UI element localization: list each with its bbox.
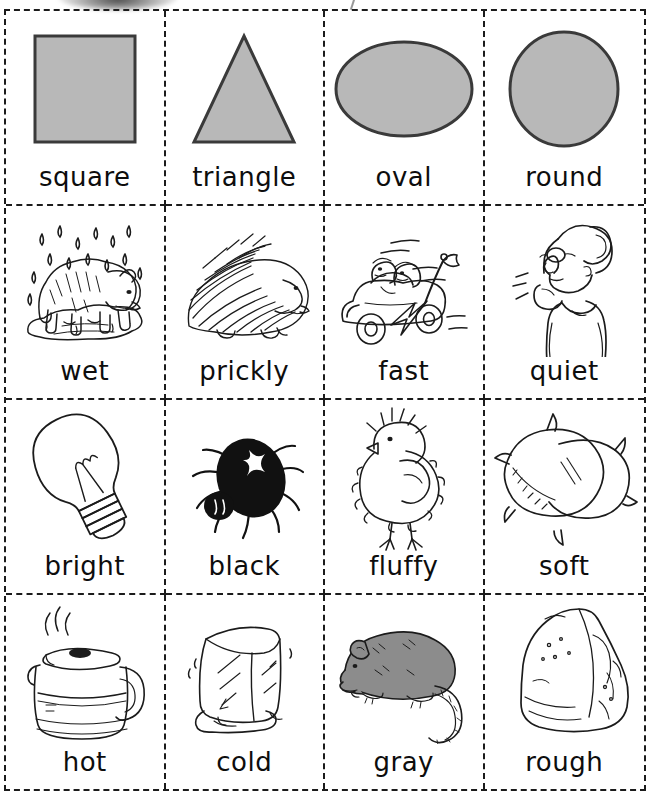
card-label: wet (60, 358, 109, 398)
card-label: square (39, 164, 131, 204)
coffee-pot-icon (6, 599, 164, 750)
card-label: black (208, 553, 280, 593)
card-black[interactable]: black (166, 400, 326, 595)
black-spider-icon (166, 404, 324, 553)
card-label: fast (378, 358, 429, 398)
pillow-icon (485, 404, 645, 553)
gray-mouse-icon (325, 599, 483, 750)
card-fast[interactable]: fast (325, 206, 485, 401)
card-label: oval (376, 164, 432, 204)
rock-icon (485, 599, 645, 750)
card-label: round (525, 164, 603, 204)
card-label: gray (373, 749, 434, 789)
circle-shape-icon (485, 15, 645, 164)
shushing-woman-icon (485, 210, 645, 359)
card-soft[interactable]: soft (485, 400, 645, 595)
oval-shape-icon (325, 15, 483, 164)
card-quiet[interactable]: quiet (485, 206, 645, 401)
triangle-shape-icon (166, 15, 324, 164)
card-label: hot (63, 749, 107, 789)
card-hot[interactable]: hot (6, 595, 166, 790)
card-label: triangle (192, 164, 296, 204)
porcupine-icon (166, 210, 324, 359)
card-fluffy[interactable]: fluffy (325, 400, 485, 595)
card-gray[interactable]: gray (325, 595, 485, 790)
card-square[interactable]: square (6, 11, 166, 206)
card-rough[interactable]: rough (485, 595, 645, 790)
light-bulb-icon (6, 404, 164, 553)
card-oval[interactable]: oval (325, 11, 485, 206)
card-label: soft (539, 553, 589, 593)
card-label: rough (525, 749, 603, 789)
wet-dog-in-rain-icon (6, 210, 164, 359)
card-prickly[interactable]: prickly (166, 206, 326, 401)
card-label: prickly (199, 358, 289, 398)
card-cold[interactable]: cold (166, 595, 326, 790)
baby-chick-icon (325, 404, 483, 553)
card-bright[interactable]: bright (6, 400, 166, 595)
card-wet[interactable]: wet (6, 206, 166, 401)
card-label: fluffy (369, 553, 438, 593)
card-round[interactable]: round (485, 11, 645, 206)
ice-cube-icon (166, 599, 324, 750)
card-triangle[interactable]: triangle (166, 11, 326, 206)
card-label: quiet (530, 358, 599, 398)
card-label: bright (44, 553, 125, 593)
flashcard-sheet: square triangle oval round (4, 9, 646, 791)
square-shape-icon (6, 15, 164, 164)
card-label: cold (216, 749, 272, 789)
race-car-icon (325, 210, 483, 359)
